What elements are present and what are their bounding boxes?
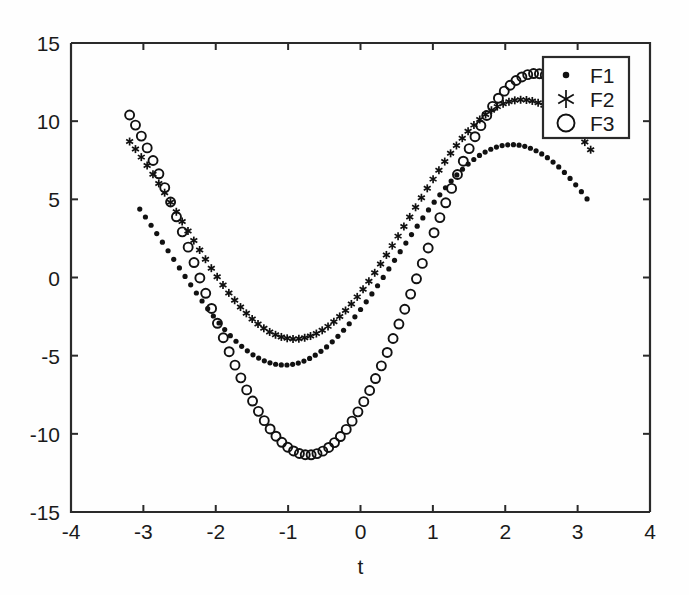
x-tick-labels: -4-3-2-101234 <box>62 520 657 543</box>
data-point-circle <box>418 259 427 268</box>
legend[interactable]: F1F2F3 <box>543 57 629 138</box>
data-point-dot <box>398 249 403 254</box>
data-point-asterisk <box>249 315 256 323</box>
data-point-dot <box>307 356 312 361</box>
data-point-asterisk <box>173 208 180 216</box>
data-point-circle <box>383 348 392 357</box>
data-point-dot <box>250 352 255 357</box>
data-point-dot <box>386 266 391 271</box>
data-point-dot <box>449 179 454 184</box>
data-point-circle <box>365 386 374 395</box>
data-point-circle <box>447 184 456 193</box>
data-point-asterisk <box>214 273 221 281</box>
data-point-asterisk <box>383 251 390 259</box>
data-point-circle <box>465 144 474 153</box>
data-point-asterisk <box>243 309 250 317</box>
legend-box <box>543 57 629 138</box>
data-point-circle <box>353 407 362 416</box>
data-point-dot <box>494 144 499 149</box>
data-point-dot <box>511 142 516 147</box>
data-point-asterisk <box>412 203 419 211</box>
data-point-dot <box>375 283 380 288</box>
data-point-dot <box>488 147 493 152</box>
data-point-dot <box>222 327 227 332</box>
data-point-dot <box>420 215 425 220</box>
y-tick-label: -15 <box>30 501 60 524</box>
data-point-dot <box>341 328 346 333</box>
data-point-asterisk <box>354 293 361 301</box>
data-point-circle <box>377 361 386 370</box>
data-point-circle <box>394 320 403 329</box>
data-point-circle <box>348 417 357 426</box>
data-point-asterisk <box>138 153 145 161</box>
data-point-circle <box>242 385 251 394</box>
data-point-circle <box>342 425 351 434</box>
data-point-dot <box>177 265 182 270</box>
data-point-dot <box>352 314 357 319</box>
data-point-circle <box>435 213 444 222</box>
data-point-dot <box>533 148 538 153</box>
data-point-dot <box>392 258 397 263</box>
data-point-asterisk <box>220 281 227 289</box>
data-point-asterisk <box>459 134 466 142</box>
data-point-asterisk <box>400 223 407 231</box>
data-point-dot <box>528 146 533 151</box>
x-axis-title: t <box>358 555 364 578</box>
data-point-dot <box>228 333 233 338</box>
data-point-circle <box>254 407 263 416</box>
data-point-circle <box>424 243 433 252</box>
data-point-dot <box>205 306 210 311</box>
y-tick-label: 5 <box>48 188 60 211</box>
data-point-dot <box>415 224 420 229</box>
data-point-asterisk <box>313 330 320 338</box>
data-point-dot <box>516 143 521 148</box>
data-point-asterisk <box>290 335 297 343</box>
data-point-dot <box>199 298 204 303</box>
data-point-circle <box>131 121 140 130</box>
data-point-dot <box>477 153 482 158</box>
data-point-asterisk <box>441 158 448 166</box>
data-point-dot <box>182 274 187 279</box>
data-point-asterisk <box>237 303 244 311</box>
data-point-dot <box>381 275 386 280</box>
data-point-dot <box>432 200 437 205</box>
data-point-dot <box>403 240 408 245</box>
data-point-dot <box>500 143 505 148</box>
data-point-dot <box>330 339 335 344</box>
data-point-circle <box>184 243 193 252</box>
data-point-dot <box>296 360 301 365</box>
data-point-asterisk <box>342 306 349 314</box>
data-point-asterisk <box>517 96 524 104</box>
x-tick-label: -2 <box>206 520 225 543</box>
data-point-dot <box>233 339 238 344</box>
data-point-circle <box>359 397 368 406</box>
data-point-dot <box>335 334 340 339</box>
data-point-asterisk <box>225 289 232 297</box>
data-point-dot <box>154 231 159 236</box>
data-point-circle <box>248 397 257 406</box>
data-point-asterisk <box>424 184 431 192</box>
data-point-dot <box>358 307 363 312</box>
data-point-circle <box>225 347 234 356</box>
data-point-dot <box>454 172 459 177</box>
data-point-circle <box>441 198 450 207</box>
data-point-asterisk <box>365 277 372 285</box>
y-tick-label: -10 <box>30 423 60 446</box>
data-point-dot <box>584 196 589 201</box>
data-point-asterisk <box>272 331 279 339</box>
x-tick-label: -4 <box>62 520 81 543</box>
data-point-dot <box>471 157 476 162</box>
data-point-dot <box>262 358 267 363</box>
data-point-circle <box>137 132 146 141</box>
data-point-dot <box>562 170 567 175</box>
data-point-asterisk <box>126 138 133 146</box>
data-point-circle <box>201 289 210 298</box>
data-point-asterisk <box>208 264 215 272</box>
data-point-dot <box>505 142 510 147</box>
data-point-circle <box>125 110 134 119</box>
data-point-dot <box>324 344 329 349</box>
x-tick-label: 2 <box>499 520 511 543</box>
data-point-dot <box>301 358 306 363</box>
data-point-dot <box>409 232 414 237</box>
y-tick-labels: -15-10-5051015 <box>30 32 60 524</box>
